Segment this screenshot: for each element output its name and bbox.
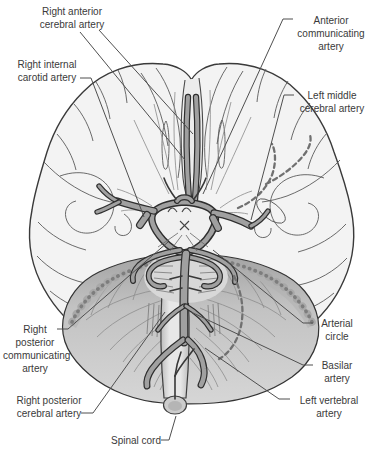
label-left-middle-cerebral-artery: Left middle cerebral artery: [282, 89, 382, 115]
label-right-posterior-communicating-artery: Right posterior communicating artery: [3, 323, 67, 375]
label-arterial-circle: Arterial circle: [307, 317, 367, 343]
label-right-posterior-cerebral-artery: Right posterior cerebral artery: [2, 394, 96, 420]
label-right-internal-carotid-artery: Right internal carotid artery: [2, 58, 92, 84]
circle-of-willis-diagram: Right anterior cerebral artery Anterior …: [0, 0, 387, 453]
label-left-vertebral-artery: Left vertebral artery: [282, 394, 376, 420]
label-basilar-artery: Basilar artery: [307, 359, 367, 385]
label-right-anterior-cerebral-artery: Right anterior cerebral artery: [14, 5, 130, 31]
basilar-artery-vessel: [184, 254, 186, 342]
right-anterior-cerebral-artery-vessel: [187, 97, 189, 200]
left-anterior-cerebral-artery-vessel: [195, 97, 197, 200]
label-anterior-communicating-artery: Anterior communicating artery: [278, 14, 384, 53]
label-spinal-cord: Spinal cord: [108, 434, 164, 447]
spinal-cord-cut-core: [168, 401, 182, 411]
